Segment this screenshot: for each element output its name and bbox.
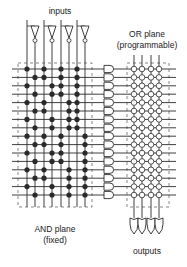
inverter-icon xyxy=(48,26,56,38)
fuse-icon xyxy=(139,142,145,148)
fuse-icon xyxy=(139,159,145,165)
connection-dot-icon xyxy=(32,125,37,130)
fuse-icon xyxy=(139,184,145,190)
connection-dot-icon xyxy=(74,83,79,88)
fuse-icon xyxy=(139,66,145,72)
fuse-icon xyxy=(156,125,162,131)
fuse-icon xyxy=(156,66,162,72)
connection-dot-icon xyxy=(32,176,37,181)
fuse-icon xyxy=(139,167,145,173)
fuse-icon xyxy=(131,66,137,72)
connection-dot-icon xyxy=(66,125,71,130)
connection-dot-icon xyxy=(24,134,29,139)
inverter-icon xyxy=(81,26,89,38)
fuse-icon xyxy=(139,83,145,89)
connection-dot-icon xyxy=(82,167,87,172)
fuse-icon xyxy=(148,159,154,165)
fuse-icon xyxy=(156,75,162,81)
and-gate-icon xyxy=(104,74,114,81)
connection-dot-icon xyxy=(41,75,46,80)
fuse-icon xyxy=(148,150,154,156)
connection-dot-icon xyxy=(24,100,29,105)
fuse-icon xyxy=(148,117,154,123)
inverter-bubble-icon xyxy=(67,39,71,43)
fuse-icon xyxy=(156,108,162,114)
connection-dot-icon xyxy=(32,92,37,97)
fuse-icon xyxy=(139,125,145,131)
connection-dot-icon xyxy=(82,134,87,139)
connection-dot-icon xyxy=(82,159,87,164)
fuse-icon xyxy=(148,167,154,173)
fuse-icon xyxy=(148,184,154,190)
fuse-icon xyxy=(131,83,137,89)
or-gate-icon xyxy=(130,218,138,234)
outputs-label: outputs xyxy=(127,246,167,256)
inverter-bubble-icon xyxy=(50,39,54,43)
connection-dot-icon xyxy=(66,108,71,113)
fuse-icon xyxy=(148,66,154,72)
connection-dot-icon xyxy=(41,108,46,113)
and-gate-icon xyxy=(104,175,114,182)
fuse-icon xyxy=(131,100,137,106)
connection-dot-icon xyxy=(41,142,46,147)
connection-dot-icon xyxy=(41,134,46,139)
connection-dot-icon xyxy=(74,66,79,71)
connection-dot-icon xyxy=(58,92,63,97)
connection-dot-icon xyxy=(24,184,29,189)
and-gate-icon xyxy=(104,116,114,123)
connection-dot-icon xyxy=(41,176,46,181)
fuse-icon xyxy=(139,75,145,81)
connection-dot-icon xyxy=(32,108,37,113)
or-plane-sublabel: (programmable) xyxy=(115,40,179,50)
and-gate-icon xyxy=(104,141,114,148)
fuse-icon xyxy=(139,100,145,106)
connection-dot-icon xyxy=(82,150,87,155)
connection-dot-icon xyxy=(74,100,79,105)
and-plane-sublabel: (fixed) xyxy=(35,235,75,245)
connection-dot-icon xyxy=(41,66,46,71)
connection-dot-icon xyxy=(58,150,63,155)
connection-dot-icon xyxy=(32,159,37,164)
connection-dot-icon xyxy=(49,117,54,122)
fuse-icon xyxy=(131,117,137,123)
output-or-gates xyxy=(130,218,163,234)
connection-dot-icon xyxy=(24,83,29,88)
fuse-icon xyxy=(156,184,162,190)
connection-dot-icon xyxy=(24,66,29,71)
fuse-icon xyxy=(139,133,145,139)
fuse-icon xyxy=(156,100,162,106)
fuse-icon xyxy=(156,192,162,198)
connection-dot-icon xyxy=(58,134,63,139)
connection-dot-icon xyxy=(24,150,29,155)
connection-dot-icon xyxy=(66,184,71,189)
fuse-icon xyxy=(131,150,137,156)
fuse-icon xyxy=(148,142,154,148)
connection-dot-icon xyxy=(32,192,37,197)
and-gate-icon xyxy=(104,107,114,114)
fuse-icon xyxy=(139,117,145,123)
and-plane-label: AND plane xyxy=(30,224,80,234)
fuse-icon xyxy=(131,108,137,114)
or-plane xyxy=(114,55,176,218)
and-gate-icon xyxy=(104,124,114,131)
fuse-icon xyxy=(131,133,137,139)
fuse-icon xyxy=(131,125,137,131)
fuse-icon xyxy=(156,117,162,123)
inverter-bubble-icon xyxy=(33,39,37,43)
fuse-icon xyxy=(131,75,137,81)
fuse-icon xyxy=(148,108,154,114)
fuse-icon xyxy=(131,142,137,148)
fuse-icon xyxy=(156,150,162,156)
fuse-icon xyxy=(139,150,145,156)
fuse-icon xyxy=(156,83,162,89)
fuse-icon xyxy=(156,159,162,165)
and-gate-icon xyxy=(104,191,114,198)
or-gate-icon xyxy=(155,218,163,234)
connection-dot-icon xyxy=(66,192,71,197)
fuse-icon xyxy=(156,175,162,181)
fuse-icon xyxy=(156,133,162,139)
fuse-icon xyxy=(156,167,162,173)
and-gate-icon xyxy=(104,65,114,72)
fuse-icon xyxy=(131,192,137,198)
fuse-icon xyxy=(148,192,154,198)
